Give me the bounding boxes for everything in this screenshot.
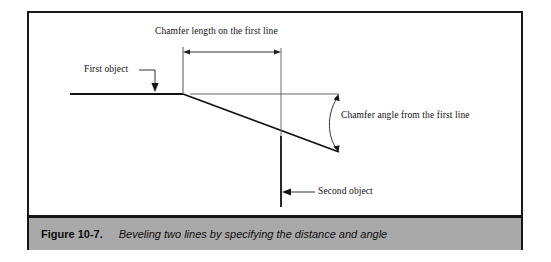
figure-container: Chamfer length on the first line First o… (0, 0, 551, 262)
second-object-label: Second object (318, 186, 373, 196)
chamfer-angle-label: Chamfer angle from the first line (341, 110, 470, 120)
first-object-label: First object (84, 64, 128, 74)
chamfer-length-label: Chamfer length on the first line (155, 26, 278, 36)
figure-caption-number: Figure 10-7. (41, 228, 103, 240)
figure-caption-bar: Figure 10-7. Beveling two lines by speci… (27, 215, 523, 250)
figure-caption-text: Beveling two lines by specifying the dis… (119, 228, 387, 240)
